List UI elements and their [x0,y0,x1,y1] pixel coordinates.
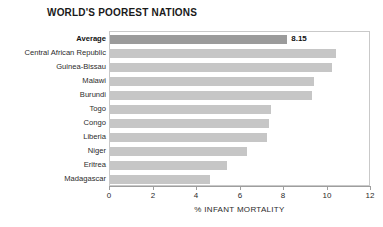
x-tick-label: 4 [184,191,208,200]
x-tick [153,186,154,190]
bar-niger [110,147,247,156]
bar-burundi [110,91,312,100]
bar-eritrea [110,161,227,170]
x-tick [327,186,328,190]
category-label-togo: Togo [0,104,106,113]
x-tick-label: 10 [315,191,339,200]
chart-title: WORLD'S POOREST NATIONS [47,7,197,18]
category-label-malawi: Malawi [0,76,106,85]
infant-mortality-bar-chart: WORLD'S POOREST NATIONS AverageCentral A… [0,0,383,227]
x-tick-label: 12 [358,191,382,200]
bar-liberia [110,133,267,142]
x-tick [370,186,371,190]
bar-togo [110,105,271,114]
bar-madagascar [110,175,210,184]
category-label-madagascar: Madagascar [0,174,106,183]
x-tick-label: 8 [271,191,295,200]
bar-value-label: 8.15 [291,34,307,43]
category-label-average: Average [0,34,106,43]
x-tick-label: 0 [97,191,121,200]
bar-malawi [110,77,314,86]
category-axis-labels: AverageCentral African RepublicGuinea-Bi… [0,31,106,186]
plot-area: 8.15 [109,31,370,186]
category-label-liberia: Liberia [0,132,106,141]
bar-guinea-bissau [110,63,332,72]
category-label-eritrea: Eritrea [0,160,106,169]
bar-congo [110,119,269,128]
category-label-guinea-bissau: Guinea-Bissau [0,62,106,71]
bar-central-african-republic [110,49,336,58]
x-tick-label: 2 [141,191,165,200]
category-label-niger: Niger [0,146,106,155]
x-tick-label: 6 [228,191,252,200]
x-axis-title: % INFANT MORTALITY [109,205,370,214]
x-tick [109,186,110,190]
bar-average [110,35,287,44]
category-label-congo: Congo [0,118,106,127]
category-label-burundi: Burundi [0,90,106,99]
x-tick [283,186,284,190]
x-tick [196,186,197,190]
category-label-central-african-republic: Central African Republic [0,48,106,57]
x-tick [240,186,241,190]
